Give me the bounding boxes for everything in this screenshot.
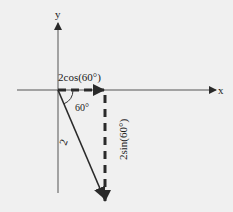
vertical-component-label: 2sin(60°) xyxy=(117,119,130,160)
horizontal-component-label: 2cos(60°) xyxy=(58,71,101,84)
vector-diagram: y x 2cos(60°) 2sin(60°) 2 60° xyxy=(0,0,233,212)
vector-magnitude-label: 2 xyxy=(57,137,70,146)
angle-label: 60° xyxy=(75,102,89,113)
y-axis-label: y xyxy=(55,8,61,20)
x-axis-label: x xyxy=(218,84,224,96)
angle-arc xyxy=(64,90,73,104)
